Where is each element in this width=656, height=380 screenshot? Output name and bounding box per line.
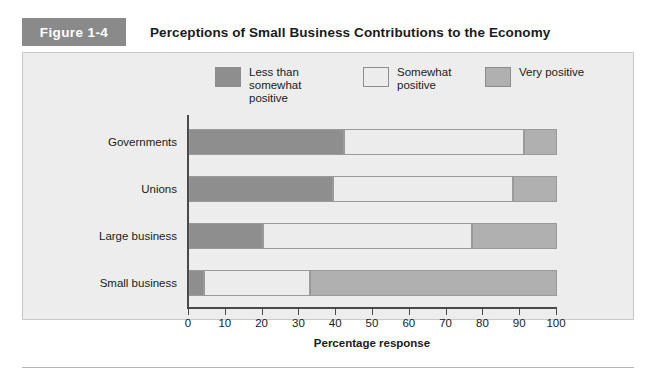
legend-swatch-icon [485,67,511,87]
legend-item-less-than-somewhat-positive: Less than somewhat positive [215,66,363,105]
footer-divider [22,367,634,368]
figure-container: Figure 1-4 Perceptions of Small Business… [0,0,656,380]
category-label: Governments [108,136,177,148]
chart-panel: Less than somewhat positive Somewhat pos… [22,52,634,320]
x-axis-tick [298,309,299,315]
category-label: Large business [99,230,177,242]
legend-item-somewhat-positive: Somewhat positive [363,66,485,92]
figure-number-badge: Figure 1-4 [22,18,126,46]
x-axis-tick-label: 90 [513,317,526,329]
x-axis-tick-label: 40 [329,317,342,329]
bar-segment [263,223,473,249]
legend-item-very-positive: Very positive [485,66,595,87]
x-axis-tick [446,309,447,315]
bar-segment [344,129,524,155]
legend-swatch-icon [363,67,389,87]
bar-segment [333,176,513,202]
bar-segment [513,176,557,202]
legend-swatch-icon [215,67,241,87]
x-axis-tick [556,309,557,315]
x-axis-tick [372,309,373,315]
bar-segment [524,129,557,155]
legend-label: Somewhat positive [397,66,483,92]
x-axis-tick [335,309,336,315]
x-axis-tick [188,309,189,315]
x-axis-tick-label: 50 [366,317,379,329]
legend-label: Less than somewhat positive [249,66,335,105]
bar-segment [310,270,557,296]
x-axis-tick-label: 20 [255,317,268,329]
x-axis-tick-label: 100 [546,317,565,329]
bar-segment [189,223,263,249]
bar-segment [189,176,333,202]
plot-area: 0102030405060708090100 Percentage respon… [187,115,559,307]
figure-header: Figure 1-4 Perceptions of Small Business… [22,18,634,46]
x-axis-tick [262,309,263,315]
bar-segment [189,270,204,296]
x-axis-tick [409,309,410,315]
chart-legend: Less than somewhat positive Somewhat pos… [215,66,595,105]
bar-segment [472,223,557,249]
x-axis-tick-label: 60 [402,317,415,329]
x-axis-tick-label: 30 [292,317,305,329]
bar-segment [204,270,311,296]
x-axis-title: Percentage response [187,337,557,349]
x-axis-tick [225,309,226,315]
category-label: Unions [141,183,177,195]
figure-title: Perceptions of Small Business Contributi… [150,18,550,46]
bar-segment [189,129,344,155]
x-axis-tick [519,309,520,315]
category-label: Small business [100,277,177,289]
legend-label: Very positive [519,66,584,79]
x-axis-tick-label: 10 [218,317,231,329]
x-axis-tick-label: 0 [185,317,191,329]
x-axis-tick [482,309,483,315]
x-axis-tick-label: 70 [439,317,452,329]
x-axis-tick-label: 80 [476,317,489,329]
